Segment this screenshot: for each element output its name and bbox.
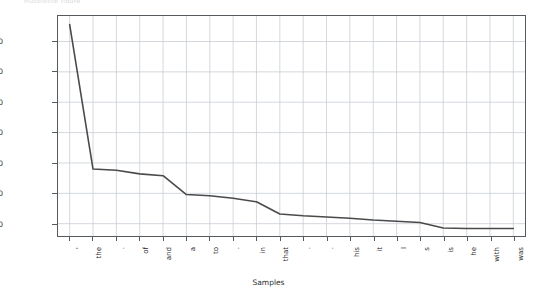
x-tick-label: it — [376, 247, 384, 252]
x-tick-label: with — [493, 247, 501, 262]
x-tick-label: to — [212, 247, 220, 254]
y-tick-label: 2500 — [0, 219, 3, 228]
x-tick-label: I — [400, 247, 408, 249]
x-tick-mark — [209, 237, 210, 241]
x-tick-label: was — [517, 247, 525, 261]
x-tick-label: , — [71, 247, 79, 249]
plot-area — [57, 15, 526, 237]
x-tick-mark — [397, 237, 398, 241]
x-axis-label: Samples — [0, 278, 537, 287]
x-tick-mark — [139, 237, 140, 241]
x-tick-label: in — [259, 247, 267, 253]
y-tick-label: 7500 — [0, 158, 3, 167]
x-tick-label: the — [95, 247, 103, 259]
x-tick-mark — [420, 237, 421, 241]
x-tick-label: a — [189, 247, 197, 251]
line-series — [58, 16, 525, 237]
x-tick-mark — [374, 237, 375, 241]
chart-figure: matplotlib figure Counts 250050007500100… — [0, 0, 537, 292]
x-tick-label: he — [470, 247, 478, 256]
x-tick-mark — [514, 237, 515, 241]
x-tick-mark — [69, 237, 70, 241]
x-tick-mark — [186, 237, 187, 241]
x-tick-label: . — [118, 247, 126, 249]
x-tick-mark — [163, 237, 164, 241]
x-tick-label: · — [235, 247, 243, 249]
x-tick-label: that — [282, 247, 290, 261]
y-tick-label: 5000 — [0, 189, 3, 198]
x-tick-label: his — [353, 247, 361, 257]
x-tick-mark — [256, 237, 257, 241]
x-tick-mark — [233, 237, 234, 241]
x-tick-mark — [327, 237, 328, 241]
x-tick-mark — [491, 237, 492, 241]
x-tick-mark — [92, 237, 93, 241]
y-tick-label: 17500 — [0, 36, 3, 45]
x-tick-mark — [444, 237, 445, 241]
x-tick-mark — [467, 237, 468, 241]
x-tick-mark — [116, 237, 117, 241]
x-tick-label: · — [306, 247, 314, 249]
x-tick-mark — [303, 237, 304, 241]
x-tick-label: of — [142, 247, 150, 254]
y-tick-label: 10000 — [0, 128, 3, 137]
series-path — [70, 25, 514, 229]
x-tick-label: · — [329, 247, 337, 249]
clipped-title-remnant: matplotlib figure — [24, 0, 81, 3]
x-tick-mark — [280, 237, 281, 241]
x-tick-label: and — [165, 247, 173, 260]
x-tick-label: is — [447, 247, 455, 253]
x-tick-label: s — [423, 247, 431, 251]
x-tick-mark — [350, 237, 351, 241]
y-tick-label: 15000 — [0, 67, 3, 76]
y-tick-label: 12500 — [0, 97, 3, 106]
